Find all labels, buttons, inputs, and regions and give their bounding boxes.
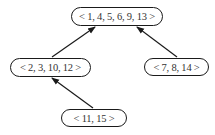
node-right: < 7, 8, 14 > — [144, 58, 209, 76]
node-root: < 1, 4, 5, 6, 9, 13 > — [71, 7, 163, 26]
edge-right-to-root — [137, 27, 177, 57]
edge-bottom-to-left — [52, 78, 93, 108]
node-left: < 2, 3, 10, 12 > — [10, 58, 91, 77]
edge-left-to-root — [52, 27, 95, 57]
node-bottom: < 11, 15 > — [61, 109, 127, 127]
